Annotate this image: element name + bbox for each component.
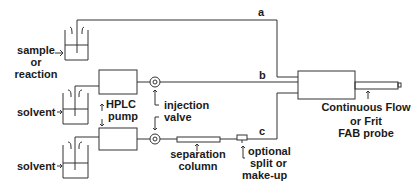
separation-column-icon xyxy=(177,137,220,142)
fab-probe-box xyxy=(298,71,355,99)
sample-beaker-icon xyxy=(65,20,88,60)
solvent-beaker-top-icon xyxy=(63,86,99,124)
hplc-pump-box-bottom xyxy=(99,128,137,150)
hplc-pump-label: HPLC pump xyxy=(106,98,138,122)
injection-valve-bottom-icon xyxy=(150,134,160,144)
line-b-label: b xyxy=(259,69,266,81)
injection-valve-label: injection valve xyxy=(164,99,209,123)
solvent-bottom-label: solvent xyxy=(17,160,56,172)
hplc-pump-box-top xyxy=(99,70,137,94)
solvent-top-label: solvent xyxy=(17,106,56,118)
lc-fab-diagram: a b c sample or reaction solvent solvent… xyxy=(0,0,417,192)
solvent-beaker-bottom-icon xyxy=(63,137,99,178)
separation-column-label: separation column xyxy=(168,148,228,172)
fab-probe-tip xyxy=(355,82,398,89)
injection-valve-top-icon xyxy=(150,77,160,87)
optional-split-label: optional split or make-up xyxy=(248,145,291,181)
split-tee-icon xyxy=(237,135,247,140)
line-c-label: c xyxy=(259,125,265,137)
line-a-label: a xyxy=(258,6,264,18)
fab-probe-label: Continuous Flow or Frit FAB probe xyxy=(318,101,414,139)
sample-label: sample or reaction xyxy=(14,44,58,80)
